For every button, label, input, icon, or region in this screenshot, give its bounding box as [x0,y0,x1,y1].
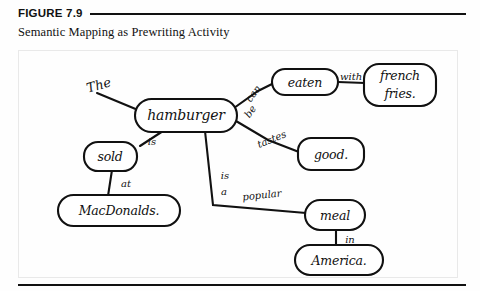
node-america-label: America. [310,253,366,268]
edge-the-hamburger [97,93,138,110]
node-america[interactable]: America. [295,245,383,275]
edge-label-with: with [340,71,362,82]
node-sold-label: sold [97,149,122,164]
edge-label-can: can [243,83,263,104]
edge-label-is: is [148,136,156,147]
node-macdonalds[interactable]: MacDonalds. [58,195,180,226]
node-meal-label: meal [320,208,350,223]
node-eaten-label: eaten [288,75,322,90]
node-hamburger-label: hamburger [147,107,226,123]
edge-label-the: The [85,74,113,95]
node-french-fries[interactable]: french fries. [364,64,436,106]
edge-label-be: be [242,103,258,119]
edge-label-a: a [221,186,227,197]
node-eaten[interactable]: eaten [272,69,338,95]
node-french-fries-label-line2: fries. [383,86,415,101]
node-good-label: good. [314,147,348,162]
figure-bottom-rule [18,284,466,286]
edge-sold-macdonalds [108,170,112,196]
edge-label-in: in [345,234,355,245]
figure-page: FIGURE 7.9 Semantic Mapping as Prewritin… [0,0,480,291]
edge-label-popular: popular [242,187,283,202]
edge-eaten-fries [338,82,365,83]
node-good[interactable]: good. [298,138,364,170]
node-hamburger[interactable]: hamburger [135,99,237,132]
node-macdonalds-label: MacDonalds. [78,203,160,218]
semantic-map-diagram: hamburger eaten french fries. good. sold [0,0,480,291]
node-french-fries-label-line1: french [379,68,420,83]
edge-label-is-2: is [221,170,229,181]
edge-label-at: at [121,178,132,189]
node-meal[interactable]: meal [305,200,365,230]
node-sold[interactable]: sold [84,142,137,171]
